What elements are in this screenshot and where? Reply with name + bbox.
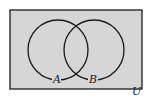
universe-rectangle — [10, 10, 142, 89]
venn-diagram: A B U — [0, 0, 150, 96]
set-a-label: A — [52, 73, 61, 86]
universe-label: U — [132, 85, 142, 96]
set-b-label: B — [88, 73, 97, 86]
